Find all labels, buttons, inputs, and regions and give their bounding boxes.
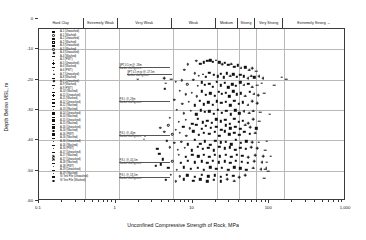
data-point [186, 83, 188, 85]
data-point [175, 108, 177, 110]
marker-glyph [52, 170, 55, 171]
data-point [229, 104, 231, 106]
data-point [280, 77, 283, 78]
data-point [216, 80, 218, 82]
marker-glyph [52, 158, 55, 161]
data-point [196, 95, 198, 97]
data-point [223, 147, 225, 149]
data-point [212, 85, 214, 87]
data-point [242, 83, 245, 86]
data-point [225, 141, 227, 143]
data-point [220, 128, 222, 130]
data-point [190, 168, 192, 170]
data-point [213, 131, 215, 133]
data-point [251, 67, 254, 70]
data-point [191, 122, 193, 124]
data-point [221, 167, 223, 169]
data-point [225, 101, 227, 103]
marker-glyph [53, 166, 54, 167]
data-point [143, 138, 145, 140]
data-point [230, 143, 232, 145]
annotation-leader-line [119, 101, 169, 102]
data-point [193, 139, 195, 141]
data-point [203, 61, 205, 63]
data-point [245, 168, 247, 170]
data-point [253, 76, 255, 78]
data-point [204, 84, 206, 86]
data-point [221, 111, 223, 113]
data-point [223, 160, 225, 162]
legend-item: SI Test Pile (Washed) [47, 179, 122, 183]
data-point [254, 154, 257, 157]
marker-glyph [52, 152, 55, 153]
data-point [248, 91, 250, 93]
data-point [264, 149, 267, 150]
marker-glyph [52, 180, 54, 182]
data-point [226, 72, 228, 74]
data-point [223, 82, 225, 84]
marker-glyph [53, 109, 54, 110]
marker-glyph [53, 148, 54, 149]
data-point [251, 85, 254, 88]
data-point [225, 154, 227, 156]
data-point [175, 168, 177, 170]
data-point [178, 90, 180, 92]
data-point [193, 161, 195, 163]
data-point [196, 85, 198, 87]
data-point [240, 92, 242, 94]
data-point [173, 142, 175, 144]
data-point [239, 74, 241, 76]
data-point [171, 160, 173, 162]
marker-glyph [52, 124, 55, 125]
data-point [163, 131, 165, 133]
data-point [177, 121, 179, 123]
data-point [230, 156, 232, 158]
data-point [213, 149, 215, 151]
marker-glyph [52, 106, 55, 107]
data-point [239, 147, 241, 149]
marker-glyph [53, 60, 54, 61]
chart-figure: Hard ClayExtremely WeakVery WeakWeakMedi… [0, 0, 366, 240]
data-point [234, 109, 236, 111]
data-point [184, 119, 186, 121]
data-point [267, 171, 270, 172]
data-point [215, 59, 217, 61]
data-point [229, 146, 231, 148]
data-point [208, 133, 210, 135]
data-point [235, 159, 237, 161]
data-point [228, 95, 230, 97]
data-point [247, 162, 249, 164]
data-point [225, 124, 227, 126]
data-point [184, 147, 186, 149]
data-point [240, 142, 242, 144]
data-point [250, 74, 253, 77]
band-medium: Medium [216, 18, 237, 28]
data-point [251, 100, 254, 103]
data-point [219, 73, 221, 75]
data-point [206, 180, 208, 182]
data-point [190, 149, 192, 151]
data-point [196, 145, 198, 147]
data-point [212, 60, 214, 62]
data-point [177, 154, 179, 156]
data-point [213, 94, 215, 96]
data-point [219, 180, 221, 182]
data-point [264, 167, 267, 170]
data-point [185, 93, 187, 95]
data-point [226, 173, 228, 175]
data-point [237, 121, 239, 123]
data-point [247, 156, 250, 159]
marker-glyph [52, 117, 55, 118]
data-point [247, 82, 249, 84]
data-point [236, 153, 238, 155]
data-point [159, 127, 161, 129]
data-point [206, 119, 208, 121]
data-point [206, 162, 208, 164]
data-point [208, 110, 210, 112]
data-point [229, 127, 231, 129]
data-point [187, 63, 189, 65]
data-point [203, 103, 205, 105]
band-extremely-weak: Extremely Weak [84, 18, 118, 28]
data-point [184, 156, 186, 158]
data-point [240, 161, 242, 163]
